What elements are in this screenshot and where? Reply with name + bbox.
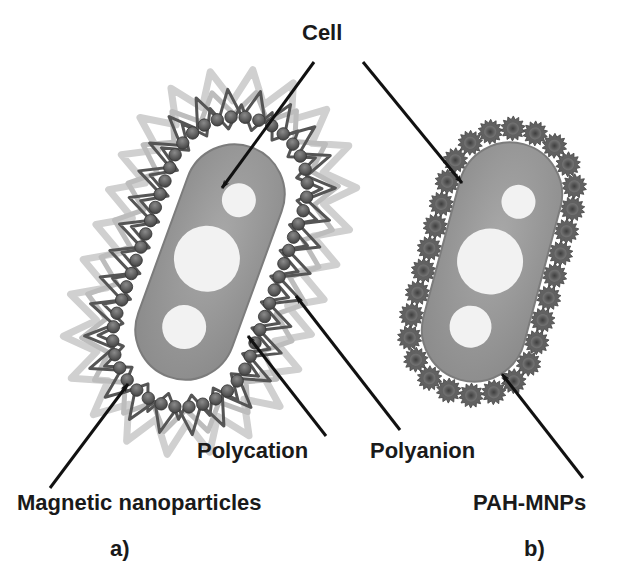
panel-b-coated-cell xyxy=(380,100,604,425)
label-cell: Cell xyxy=(302,22,342,44)
label-magnetic-nanoparticles: Magnetic nanoparticles xyxy=(17,492,262,514)
arrow-magnetic-nanoparticles xyxy=(50,384,128,488)
panel-caption-a: a) xyxy=(110,538,130,560)
arrow-cell-to-b xyxy=(363,62,462,183)
label-pah-mnps: PAH-MNPs xyxy=(473,492,586,514)
figure: Cell Polycation Polyanion Magnetic nanop… xyxy=(0,0,642,588)
arrow-pah-mnps xyxy=(502,374,583,478)
panel-a-coated-cell xyxy=(30,36,390,488)
label-polyanion: Polyanion xyxy=(370,440,475,462)
panel-caption-b: b) xyxy=(524,538,545,560)
cell-b xyxy=(410,131,574,394)
arrow-polyanion xyxy=(296,296,400,430)
label-polycation: Polycation xyxy=(197,440,308,462)
